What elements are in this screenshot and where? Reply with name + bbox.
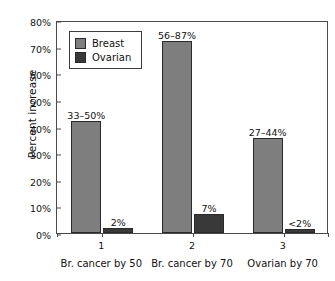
- bar-ovarian-1[interactable]: [103, 228, 133, 233]
- y-axis-tick-mark: [57, 128, 61, 129]
- x-axis-group-number: 3: [280, 240, 286, 251]
- bar-value-label: 2%: [111, 217, 126, 228]
- bar-value-label: 56–87%: [158, 30, 196, 41]
- x-axis-category-label: Br. cancer by 70: [151, 258, 232, 269]
- bar-value-label: 27–44%: [249, 127, 287, 138]
- legend-item-ovarian[interactable]: Ovarian: [75, 50, 131, 64]
- y-axis-tick-mark: [57, 48, 61, 49]
- y-axis-tick-mark: [57, 22, 61, 23]
- plot-area: 0%10%20%30%40%50%60%70%80% 33–50%2%56–87…: [56, 21, 328, 234]
- x-axis-edge-tick-mark: [328, 233, 329, 237]
- legend-item-label: Breast: [92, 38, 124, 49]
- y-axis-tick-mark: [57, 208, 61, 209]
- y-axis-tick-label: 60%: [30, 70, 57, 81]
- y-axis-tick-label: 50%: [30, 96, 57, 107]
- y-axis-tick-label: 20%: [30, 176, 57, 187]
- y-axis-tick-label: 10%: [30, 203, 57, 214]
- chart-figure: Percent increase 0%10%20%30%40%50%60%70%…: [0, 0, 335, 281]
- x-axis-edge-tick-mark: [57, 233, 58, 237]
- legend-item-label: Ovarian: [92, 52, 131, 63]
- y-axis-tick-label: 80%: [30, 17, 57, 28]
- bar-value-label: 7%: [201, 203, 216, 214]
- bar-value-label: 33–50%: [67, 110, 105, 121]
- x-axis-group-number: 2: [189, 240, 195, 251]
- x-axis-category-label: Ovarian by 70: [247, 258, 318, 269]
- y-axis-tick-label: 70%: [30, 43, 57, 54]
- y-axis-tick-label: 0%: [36, 230, 57, 241]
- legend-swatch-icon: [75, 52, 86, 63]
- legend-swatch-icon: [75, 38, 86, 49]
- y-axis-tick-label: 40%: [30, 123, 57, 134]
- y-axis-tick-mark: [57, 101, 61, 102]
- bar-ovarian-3[interactable]: [285, 229, 315, 233]
- bar-breast-1[interactable]: [71, 121, 101, 233]
- bar-breast-2[interactable]: [162, 41, 192, 233]
- bar-breast-3[interactable]: [253, 138, 283, 233]
- bar-ovarian-2[interactable]: [194, 214, 224, 233]
- bar-value-label: <2%: [288, 218, 311, 229]
- legend-item-breast[interactable]: Breast: [75, 36, 131, 50]
- x-axis-category-label: Br. cancer by 50: [61, 258, 142, 269]
- x-axis-tick-mark: [284, 233, 285, 237]
- chart-legend: BreastOvarian: [69, 31, 142, 69]
- y-axis-tick-mark: [57, 155, 61, 156]
- x-axis-group-number: 1: [98, 240, 104, 251]
- y-axis-tick-label: 30%: [30, 150, 57, 161]
- x-axis-tick-mark: [193, 233, 194, 237]
- y-axis-tick-mark: [57, 181, 61, 182]
- y-axis-tick-mark: [57, 75, 61, 76]
- x-axis-tick-mark: [102, 233, 103, 237]
